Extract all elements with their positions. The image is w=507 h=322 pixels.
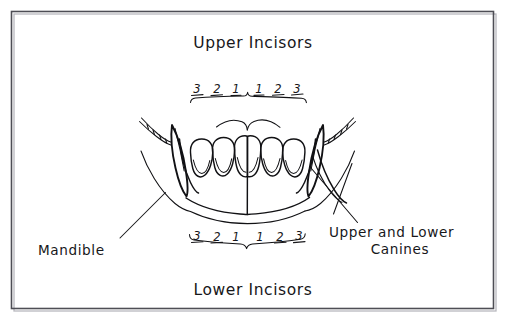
canines-leader-line-a <box>311 168 358 223</box>
upper-gingiva-frenum <box>217 120 281 130</box>
canine-left-group <box>171 125 198 197</box>
canines-leader-line-b <box>334 164 353 215</box>
upper-incisor-left-3 <box>190 139 212 177</box>
lower-incisor-bracket <box>190 234 306 249</box>
upper-incisor-teeth <box>190 136 304 177</box>
upper-incisor-right-2 <box>261 137 283 176</box>
upper-number-1-left: 1 <box>232 82 239 96</box>
lower-number-1-left: 1 <box>232 230 239 244</box>
upper-incisor-left-1 <box>234 136 247 177</box>
upper-number-3-right: 3 <box>293 82 300 96</box>
upper-incisor-right-1 <box>248 136 261 177</box>
figure-root: Upper Incisors 3 2 1 1 2 3 <box>0 0 507 322</box>
upper-number-1-right: 1 <box>255 82 262 96</box>
right-posterior-teeth <box>324 118 356 145</box>
upper-incisor-left-2 <box>212 137 234 176</box>
canines-callout: Upper and Lower Canines <box>311 164 454 258</box>
upper-incisor-bracket <box>191 92 307 102</box>
dental-diagram-svg: Upper Incisors 3 2 1 1 2 3 <box>0 0 507 322</box>
lower-number-2-right: 2 <box>276 230 283 244</box>
canines-label-line1: Upper and Lower <box>329 224 454 240</box>
upper-number-2-left: 2 <box>213 82 220 96</box>
dentition-drawing <box>140 118 356 224</box>
upper-incisor-right-3 <box>283 139 305 177</box>
mandible-callout: Mandible <box>38 193 166 259</box>
figure-frame <box>12 12 497 312</box>
canines-label-line2: Canines <box>371 241 429 257</box>
upper-number-3-left: 3 <box>193 82 200 96</box>
lower-number-1-right: 1 <box>256 230 263 244</box>
lower-number-3-left: 3 <box>193 229 200 243</box>
upper-number-2-right: 2 <box>274 82 281 96</box>
left-posterior-teeth <box>140 118 172 145</box>
lower-number-2-left: 2 <box>213 230 220 244</box>
lower-incisors-title: Lower Incisors <box>194 281 313 299</box>
mandible-label: Mandible <box>38 242 105 258</box>
lower-number-3-right: 3 <box>295 229 302 243</box>
mandible-leader-line <box>120 193 166 239</box>
upper-incisors-title: Upper Incisors <box>193 34 313 52</box>
